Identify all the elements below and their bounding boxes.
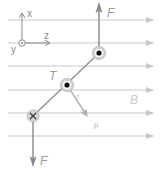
- y-axis-dot: [21, 42, 23, 44]
- conductor-top-current-out-icon: [93, 47, 106, 60]
- force-down-label: F: [40, 154, 48, 168]
- moment-label: μ: [93, 120, 99, 129]
- torque-label: T: [49, 69, 58, 83]
- coordinate-axes: x z y: [11, 8, 50, 55]
- force-up-label: F: [107, 6, 115, 20]
- conductor-bottom-current-in-icon: [27, 110, 39, 122]
- x-axis-label: x: [27, 8, 32, 19]
- field-label: B: [130, 93, 138, 107]
- torque-diagram: x z y θ μ F F T B: [0, 0, 162, 173]
- y-axis-label: y: [11, 44, 16, 55]
- conductor-center-axis-icon: [61, 79, 74, 92]
- angle-label: θ: [76, 93, 80, 99]
- z-axis-label: z: [44, 30, 49, 41]
